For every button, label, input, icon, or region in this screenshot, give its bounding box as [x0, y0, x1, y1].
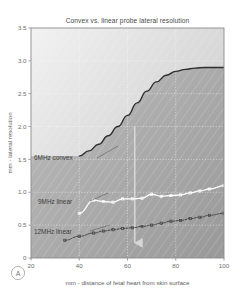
- y-tick-label: 1.0: [18, 188, 27, 195]
- y-tick-label: 2.0: [18, 123, 27, 130]
- y-tick-label: 0: [23, 254, 27, 261]
- x-axis-label: mm - distance of fetal heart from skin s…: [66, 279, 190, 286]
- y-tick-label: 3.0: [18, 57, 27, 64]
- panel-label-text: A: [16, 270, 21, 277]
- x-tick-label: 40: [76, 262, 83, 269]
- series-label-12mhz-linear: 12MHz linear: [34, 228, 73, 235]
- series-label-6mhz-convex: 6MHz convex: [34, 154, 74, 161]
- x-tick-label: 80: [172, 262, 179, 269]
- y-tick-label: 2.5: [18, 90, 27, 97]
- x-tick-label: 20: [28, 262, 35, 269]
- x-tick-label: 60: [124, 262, 131, 269]
- x-tick-label: 100: [219, 262, 230, 269]
- y-tick-label: 0.5: [18, 221, 27, 228]
- y-tick-label: 3.5: [18, 24, 27, 31]
- series-label-9mhz-linear: 9MHz linear: [38, 198, 73, 205]
- figure-panel: 00.51.01.52.02.53.03.5 20406080100 Conve…: [0, 0, 237, 293]
- y-tick-label: 1.5: [18, 156, 27, 163]
- chart-canvas: 00.51.01.52.02.53.03.5 20406080100 Conve…: [0, 0, 237, 293]
- y-axis-label: mm - lateral resolution: [6, 112, 13, 174]
- chart-title: Convex vs. linear probe lateral resoluti…: [66, 17, 190, 25]
